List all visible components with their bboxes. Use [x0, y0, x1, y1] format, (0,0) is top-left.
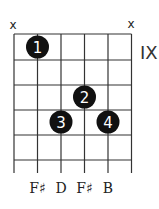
- note-label-string-2: F♯: [29, 180, 46, 196]
- chord-diagram: x x IX 1 2 3 4 F♯ D F♯ B: [0, 0, 159, 209]
- finger-number: 1: [33, 39, 43, 57]
- note-label-string-5: B: [103, 180, 113, 196]
- finger-dot-1: 1: [26, 36, 49, 59]
- fret-position-label: IX: [140, 42, 158, 63]
- finger-number: 4: [103, 114, 113, 132]
- finger-number: 2: [80, 89, 90, 107]
- note-label-string-3: D: [55, 180, 66, 196]
- mute-marker-string-1: x: [9, 18, 16, 32]
- finger-dot-4: 4: [97, 111, 120, 134]
- finger-dot-3: 3: [50, 111, 73, 134]
- mute-marker-string-6: x: [127, 17, 134, 31]
- note-label-string-4: F♯: [76, 180, 93, 196]
- finger-number: 3: [56, 114, 66, 132]
- finger-dot-2: 2: [73, 86, 96, 109]
